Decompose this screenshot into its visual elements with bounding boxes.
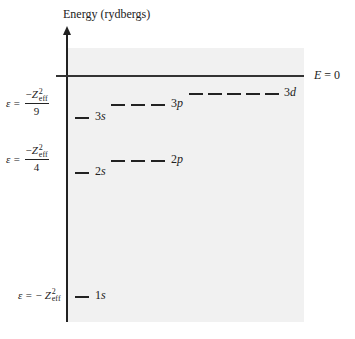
label-2s: 2s	[95, 164, 106, 179]
label-3d: 3d	[284, 85, 296, 100]
level-3p	[111, 104, 165, 106]
energy-formula-n2: ε = −Z2eff 4	[6, 144, 49, 174]
level-1s	[75, 296, 89, 298]
shaded-bound-region	[68, 48, 304, 322]
zero-energy-label: E = 0	[314, 68, 340, 83]
level-3d	[189, 93, 279, 95]
energy-formula-n3: ε = −Z2eff 9	[6, 88, 49, 118]
axis-arrow-icon	[63, 26, 71, 35]
level-2p	[111, 160, 165, 162]
axis-title: Energy (rydbergs)	[63, 7, 150, 22]
level-2s	[75, 172, 89, 174]
label-3s: 3s	[95, 109, 106, 124]
label-3p: 3p	[171, 96, 183, 111]
label-2p: 2p	[171, 152, 183, 167]
zero-energy-line	[56, 75, 304, 77]
level-3s	[75, 117, 89, 119]
label-1s: 1s	[95, 288, 106, 303]
energy-formula-n1: ε = − Z2eff	[18, 288, 61, 302]
